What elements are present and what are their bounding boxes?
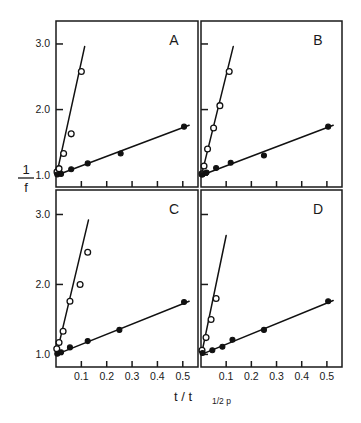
y-axis-title-numerator: 1 (22, 162, 29, 177)
panel-label-b: B (313, 32, 322, 48)
data-point-filled-circles (182, 299, 187, 304)
data-point-open-circles (217, 103, 223, 109)
data-point-open-circles (77, 282, 83, 288)
panel-label-d: D (313, 201, 323, 217)
data-point-filled-circles (204, 170, 209, 175)
data-point-open-circles (61, 151, 67, 157)
data-point-open-circles (68, 131, 74, 137)
data-point-filled-circles (261, 327, 266, 332)
data-point-open-circles (60, 328, 66, 334)
data-point-filled-circles (228, 160, 233, 165)
data-point-filled-circles (59, 350, 64, 355)
data-point-open-circles (56, 166, 62, 172)
y-tick-label: 3.0 (35, 208, 50, 220)
data-point-open-circles (208, 317, 214, 323)
y-tick-label: 2.0 (35, 103, 50, 115)
x-axis-title-subscript: 1/2 p (212, 396, 231, 406)
data-point-open-circles (203, 335, 209, 341)
data-point-open-circles (201, 163, 207, 169)
y-tick-label: 3.0 (35, 37, 50, 49)
x-tick-label: 0.5 (175, 370, 190, 382)
data-point-filled-circles (200, 351, 205, 356)
data-point-open-circles (205, 146, 211, 152)
data-point-filled-circles (85, 339, 90, 344)
data-point-filled-circles (69, 167, 74, 172)
x-tick-label: 0.3 (269, 370, 284, 382)
x-tick-label: 0.2 (244, 370, 259, 382)
data-point-open-circles (211, 125, 217, 131)
y-tick-label: 2.0 (35, 278, 50, 290)
data-point-filled-circles (117, 327, 122, 332)
data-point-filled-circles (230, 337, 235, 342)
figure-container: ABCD 1.02.03.01.02.03.0 0.10.20.30.40.50… (0, 0, 361, 423)
data-point-filled-circles (59, 171, 64, 176)
data-point-open-circles (78, 69, 84, 75)
panel-label-a: A (169, 32, 179, 48)
data-point-filled-circles (67, 345, 72, 350)
x-tick-label: 0.1 (219, 370, 234, 382)
data-point-filled-circles (326, 299, 331, 304)
scientific-figure: ABCD 1.02.03.01.02.03.0 0.10.20.30.40.50… (0, 0, 361, 423)
x-tick-label: 0.1 (74, 370, 89, 382)
y-axis-title-denominator: f (24, 180, 28, 195)
data-point-filled-circles (326, 124, 331, 129)
data-point-filled-circles (261, 153, 266, 158)
data-point-filled-circles (210, 348, 215, 353)
x-axis-title-main: t / t (174, 389, 192, 404)
data-point-filled-circles (118, 151, 123, 156)
x-tick-label: 0.3 (125, 370, 140, 382)
data-point-filled-circles (182, 124, 187, 129)
x-tick-label: 0.2 (99, 370, 114, 382)
data-point-filled-circles (85, 161, 90, 166)
figure-background (0, 0, 361, 423)
data-point-open-circles (213, 296, 219, 302)
data-point-open-circles (226, 69, 232, 75)
data-point-filled-circles (220, 344, 225, 349)
panel-label-c: C (169, 201, 179, 217)
x-tick-label: 0.4 (294, 370, 309, 382)
x-tick-label: 0.4 (150, 370, 165, 382)
x-tick-label: 0.5 (320, 370, 335, 382)
data-point-filled-circles (214, 165, 219, 170)
data-point-open-circles (67, 298, 73, 304)
y-tick-label: 1.0 (35, 348, 50, 360)
data-point-open-circles (85, 249, 91, 255)
data-point-open-circles (56, 340, 62, 346)
y-tick-label: 1.0 (35, 169, 50, 181)
